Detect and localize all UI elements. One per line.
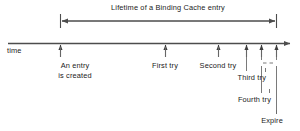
binding-cache-lifetime-diagram: Lifetime of a Binding Cache entry time A… bbox=[0, 0, 300, 131]
diagram-canvas bbox=[0, 0, 300, 131]
label-expire: Expire bbox=[261, 116, 283, 126]
label-entry-created-line2: is created bbox=[58, 71, 92, 81]
time-axis-label: time bbox=[7, 46, 22, 56]
upper-label-stems bbox=[61, 47, 219, 57]
label-first-try: First try bbox=[152, 61, 178, 71]
label-entry-created-line1: An entry bbox=[58, 61, 92, 71]
label-third-try: Third try bbox=[238, 73, 266, 83]
label-entry-created: An entry is created bbox=[58, 61, 92, 81]
lifetime-span-label: Lifetime of a Binding Cache entry bbox=[111, 3, 225, 13]
lifetime-span-bracket bbox=[61, 14, 277, 28]
label-second-try: Second try bbox=[200, 61, 237, 71]
label-fourth-try: Fourth try bbox=[238, 95, 271, 105]
event-ticks bbox=[61, 45, 277, 57]
